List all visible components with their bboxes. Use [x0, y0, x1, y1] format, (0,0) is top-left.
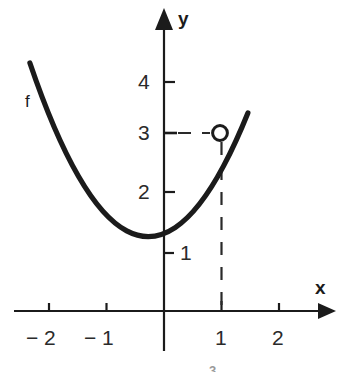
y-tick-label-2: 2 [138, 181, 150, 202]
open-point-marker [213, 126, 228, 141]
y-tick-label-1: 1 [180, 242, 192, 263]
x-tick-label--1: − 1 [84, 327, 114, 348]
x-tick-label--2: − 2 [26, 327, 56, 348]
x-axis-arrowhead [318, 303, 336, 319]
x-tick-label-2: 2 [272, 327, 284, 348]
y-axis-label: y [178, 9, 189, 28]
y-axis-arrowhead [155, 8, 173, 30]
x-tick-label-1: 1 [215, 327, 227, 348]
graph-figure: y x f 4 3 2 1 − 2 − 1 1 2 3 [0, 0, 337, 372]
plot-canvas [0, 0, 337, 372]
curve-label-f: f [25, 93, 30, 110]
y-tick-label-4: 4 [138, 71, 150, 92]
x-axis-label: x [315, 278, 326, 297]
y-tick-label-3: 3 [138, 122, 150, 143]
caption-fragment: 3 [209, 364, 216, 372]
